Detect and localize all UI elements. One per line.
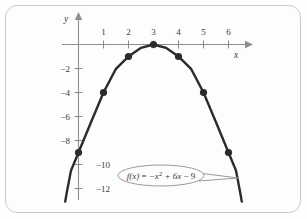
- equation-arg: (x): [129, 171, 139, 181]
- data-point-6: [225, 149, 232, 156]
- x-tick-label-3: 3: [151, 27, 156, 37]
- y-axis-label: y: [63, 14, 69, 24]
- x-tick-label-1: 1: [101, 27, 106, 37]
- data-point-2: [125, 53, 132, 60]
- y-tick-label-minus2: −2: [60, 64, 70, 74]
- data-point-1: [100, 89, 107, 96]
- parabola-plot: 1 2 3 4 5 6 −2 −4 −6 −8 −10 −12 x y f(x)…: [0, 0, 307, 219]
- data-point-5: [200, 89, 207, 96]
- data-point-3-vertex: [150, 41, 157, 48]
- equation-text: f(x) = −x2 + 6x − 9: [127, 170, 196, 181]
- x-axis-label: x: [233, 50, 239, 60]
- y-tick-label-minus10: −10: [96, 160, 111, 170]
- equation-plus-six-x: + 6x: [162, 171, 181, 181]
- x-tick-label-6: 6: [226, 27, 231, 37]
- y-tick-label-minus8: −8: [60, 136, 70, 146]
- equation-equals: =: [139, 171, 149, 181]
- equation-minus-x: −x: [149, 171, 159, 181]
- y-axis: [75, 12, 82, 200]
- y-tick-label-minus4: −4: [60, 88, 70, 98]
- x-tick-label-5: 5: [201, 27, 206, 37]
- x-tick-label-2: 2: [126, 27, 131, 37]
- equation-minus-nine: − 9: [181, 171, 196, 181]
- y-tick-label-minus6: −6: [60, 112, 70, 122]
- y-tick-label-minus12: −12: [96, 184, 110, 194]
- data-point-0: [75, 149, 82, 156]
- data-point-4: [175, 53, 182, 60]
- x-axis-arrowhead: [245, 41, 253, 48]
- x-tick-label-4: 4: [176, 27, 181, 37]
- y-axis-arrowhead: [75, 12, 82, 20]
- callout-tail: [199, 173, 238, 181]
- figure-root: 1 2 3 4 5 6 −2 −4 −6 −8 −10 −12 x y f(x)…: [0, 0, 307, 219]
